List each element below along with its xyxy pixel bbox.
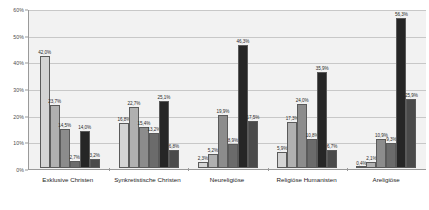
bar[interactable] [129, 107, 139, 168]
bar-wrapper: 2,1% [366, 10, 376, 168]
bar-wrapper: 5,2% [208, 10, 218, 168]
bar-chart: 0%10%20%30%40%50%60% 42,0%23,7%14,5%2,7%… [0, 0, 429, 210]
bar-wrapper: 0,4% [356, 10, 366, 168]
y-tick-label: 40% [13, 60, 24, 66]
bar-value-label: 6,8% [169, 144, 179, 149]
bar[interactable] [119, 123, 129, 168]
bar-wrapper: 10,9% [376, 10, 386, 168]
bar-wrapper: 9,3% [386, 10, 396, 168]
bar[interactable] [169, 150, 179, 168]
bar[interactable] [228, 144, 238, 168]
bar-wrapper: 6,8% [169, 10, 179, 168]
bar[interactable] [287, 122, 297, 168]
bar-wrapper: 2,3% [198, 10, 208, 168]
x-axis: Exklusive ChristenSynkretistische Christ… [28, 176, 426, 183]
bar-wrapper: 22,7% [129, 10, 139, 168]
bar-wrapper: 25,1% [159, 10, 169, 168]
bar[interactable] [218, 115, 228, 168]
bar[interactable] [366, 162, 376, 168]
bar-wrapper: 17,5% [248, 10, 258, 168]
x-category-label: Neureligiöse [187, 176, 267, 183]
bar-wrapper: 25,9% [406, 10, 416, 168]
bar[interactable] [40, 56, 50, 168]
bar-value-label: 2,3% [198, 156, 208, 161]
bar-wrapper: 2,7% [70, 10, 80, 168]
bar[interactable] [139, 127, 149, 168]
x-tick-mark [268, 168, 269, 171]
bar-wrapper: 8,9% [228, 10, 238, 168]
bar[interactable] [149, 133, 159, 168]
bar-wrapper: 14,0% [80, 10, 90, 168]
bar-group: 0,4%2,1%10,9%9,3%56,3%25,9% [347, 10, 426, 168]
bar[interactable] [238, 45, 248, 168]
bar[interactable] [406, 99, 416, 168]
bar[interactable] [356, 166, 366, 168]
x-category-label: Areligiöse [346, 176, 426, 183]
bar-wrapper: 24,0% [297, 10, 307, 168]
bar[interactable] [60, 129, 70, 168]
y-tick-label: 30% [13, 87, 24, 93]
bar-wrapper: 56,3% [396, 10, 406, 168]
bar-value-label: 8,9% [228, 138, 238, 143]
y-axis: 0%10%20%30%40%50%60% [0, 10, 28, 170]
bar[interactable] [376, 139, 386, 168]
bar-wrapper: 6,7% [327, 10, 337, 168]
bar-wrapper: 10,8% [307, 10, 317, 168]
bar-wrapper: 35,9% [317, 10, 327, 168]
bar-value-label: 2,1% [366, 156, 376, 161]
bar-wrapper: 16,8% [119, 10, 129, 168]
bar-wrapper: 17,3% [287, 10, 297, 168]
bar[interactable] [70, 161, 80, 168]
bar[interactable] [90, 159, 100, 168]
bar-value-label: 2,7% [69, 155, 79, 160]
bar-group: 42,0%23,7%14,5%2,7%14,0%3,2% [30, 10, 109, 168]
y-tick-label: 60% [13, 7, 24, 13]
y-tick-label: 10% [13, 140, 24, 146]
bar-value-label: 25,9% [405, 93, 418, 98]
bar[interactable] [248, 121, 258, 168]
x-tick-mark [347, 168, 348, 171]
bar-group: 16,8%22,7%15,4%13,2%25,1%6,8% [109, 10, 188, 168]
bar[interactable] [277, 152, 287, 168]
bar-wrapper: 5,9% [277, 10, 287, 168]
bar-value-label: 3,2% [89, 153, 99, 158]
bar-wrapper: 13,2% [149, 10, 159, 168]
bar-group: 2,3%5,2%19,9%8,9%46,3%17,5% [188, 10, 267, 168]
bar-wrapper: 46,3% [238, 10, 248, 168]
bar[interactable] [327, 150, 337, 168]
y-tick-label: 50% [13, 34, 24, 40]
bar-wrapper: 14,5% [60, 10, 70, 168]
bar[interactable] [198, 162, 208, 168]
bar[interactable] [50, 105, 60, 168]
bar-wrapper: 23,7% [50, 10, 60, 168]
y-tick-label: 0% [16, 167, 24, 173]
bar-value-label: 5,9% [277, 146, 287, 151]
bar-group: 5,9%17,3%24,0%10,8%35,9%6,7% [268, 10, 347, 168]
bar[interactable] [307, 139, 317, 168]
bar[interactable] [317, 72, 327, 168]
x-tick-mark [188, 168, 189, 171]
bar-value-label: 6,7% [327, 144, 337, 149]
y-tick-label: 20% [13, 114, 24, 120]
bar-value-label: 5,2% [208, 148, 218, 153]
bar-groups: 42,0%23,7%14,5%2,7%14,0%3,2%16,8%22,7%15… [30, 10, 426, 168]
bar[interactable] [80, 131, 90, 168]
x-tick-mark [109, 168, 110, 171]
bar-value-label: 0,4% [356, 161, 366, 166]
bar-wrapper: 19,9% [218, 10, 228, 168]
bar-wrapper: 15,4% [139, 10, 149, 168]
bar-value-label: 9,3% [386, 137, 396, 142]
x-category-label: Religiöse Humanisten [267, 176, 347, 183]
bar-wrapper: 3,2% [90, 10, 100, 168]
bar[interactable] [159, 101, 169, 168]
plot-area: 42,0%23,7%14,5%2,7%14,0%3,2%16,8%22,7%15… [28, 10, 426, 170]
x-category-label: Exklusive Christen [28, 176, 108, 183]
x-category-label: Synkretistische Christen [108, 176, 188, 183]
bar-value-label: 17,5% [247, 115, 260, 120]
bar[interactable] [386, 143, 396, 168]
bar-wrapper: 42,0% [40, 10, 50, 168]
bar[interactable] [208, 154, 218, 168]
